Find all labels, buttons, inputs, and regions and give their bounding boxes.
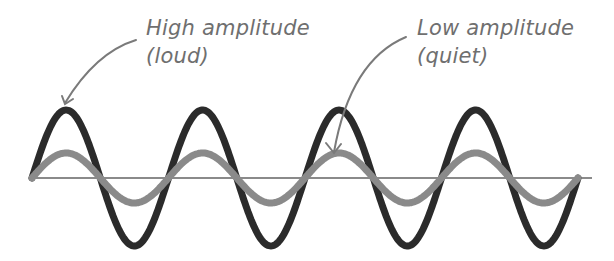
arrow-to-low-peak-icon xyxy=(326,37,406,153)
low-amplitude-subtitle: (quiet) xyxy=(417,42,574,70)
low-amplitude-title: Low amplitude xyxy=(417,14,574,42)
arrow-to-high-peak-icon xyxy=(62,40,136,104)
high-amplitude-title: High amplitude xyxy=(146,14,310,42)
low-amplitude-label: Low amplitude (quiet) xyxy=(417,14,574,70)
high-amplitude-label: High amplitude (loud) xyxy=(146,14,310,70)
high-amplitude-subtitle: (loud) xyxy=(146,42,310,70)
